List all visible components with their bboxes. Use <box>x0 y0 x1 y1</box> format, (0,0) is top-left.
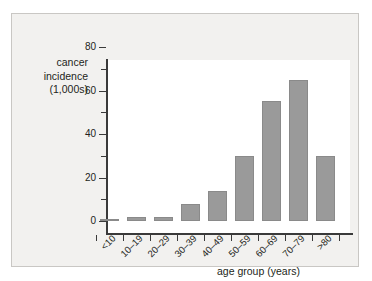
y-minor-tick <box>101 199 106 200</box>
y-tick <box>99 221 106 222</box>
x-tick <box>231 235 232 241</box>
x-tick <box>285 235 286 241</box>
bar-60_69 <box>262 101 282 221</box>
bar-70_79 <box>289 80 309 221</box>
bar-10_19 <box>127 217 147 221</box>
bar-50_59 <box>235 156 255 221</box>
x-tick-label: 60–69 <box>247 233 280 266</box>
x-axis-line <box>106 233 353 235</box>
x-axis-title: age group (years) <box>217 265 300 277</box>
bar-_80 <box>316 156 336 221</box>
y-tick <box>99 134 106 135</box>
y-axis-title-line-1: cancer <box>20 56 88 70</box>
y-tick-label: 40 <box>54 129 96 139</box>
chart-panel: cancer incidence (1,000s) age group (yea… <box>11 13 359 267</box>
x-tick-label: 30–39 <box>166 233 199 266</box>
x-tick <box>312 235 313 241</box>
plot-area <box>107 60 350 234</box>
x-tick <box>150 235 151 241</box>
y-minor-tick <box>101 112 106 113</box>
x-tick-label: 20–29 <box>139 233 172 266</box>
x-tick-label: 70–79 <box>274 233 307 266</box>
x-tick-label: <10 <box>85 233 118 266</box>
x-tick-label: 40–49 <box>193 233 226 266</box>
x-tick <box>177 235 178 241</box>
x-tick <box>96 235 97 241</box>
bar-40_49 <box>208 191 228 221</box>
y-tick-label: 80 <box>54 42 96 52</box>
x-tick <box>123 235 124 241</box>
x-tick <box>204 235 205 241</box>
x-tick <box>339 235 340 241</box>
bar-30_39 <box>181 204 201 221</box>
bar-20_29 <box>154 217 174 221</box>
figure: cancer incidence (1,000s) age group (yea… <box>0 0 372 281</box>
y-tick <box>99 178 106 179</box>
y-minor-tick <box>101 156 106 157</box>
y-tick-label: 0 <box>54 216 96 226</box>
bar-_10 <box>100 219 120 221</box>
y-tick-label: 60 <box>54 86 96 96</box>
x-tick-label: 10–19 <box>112 233 145 266</box>
x-tick <box>258 235 259 241</box>
y-axis-line <box>106 59 108 235</box>
y-tick <box>99 47 106 48</box>
x-tick-label: >80 <box>301 233 334 266</box>
y-tick <box>99 91 106 92</box>
y-minor-tick <box>101 69 106 70</box>
x-tick-label: 50–59 <box>220 233 253 266</box>
y-axis-title-line-2: incidence <box>20 70 88 84</box>
y-tick-label: 20 <box>54 173 96 183</box>
